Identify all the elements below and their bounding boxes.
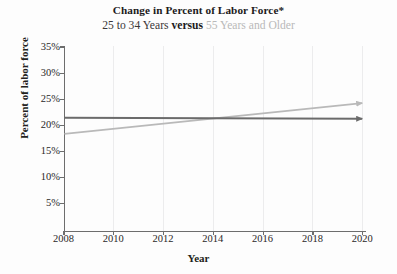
chart-figure: Change in Percent of Labor Force* 25 to … xyxy=(0,0,397,274)
chart-plot-area xyxy=(0,0,397,274)
series-line-25-to-34 xyxy=(64,118,362,119)
